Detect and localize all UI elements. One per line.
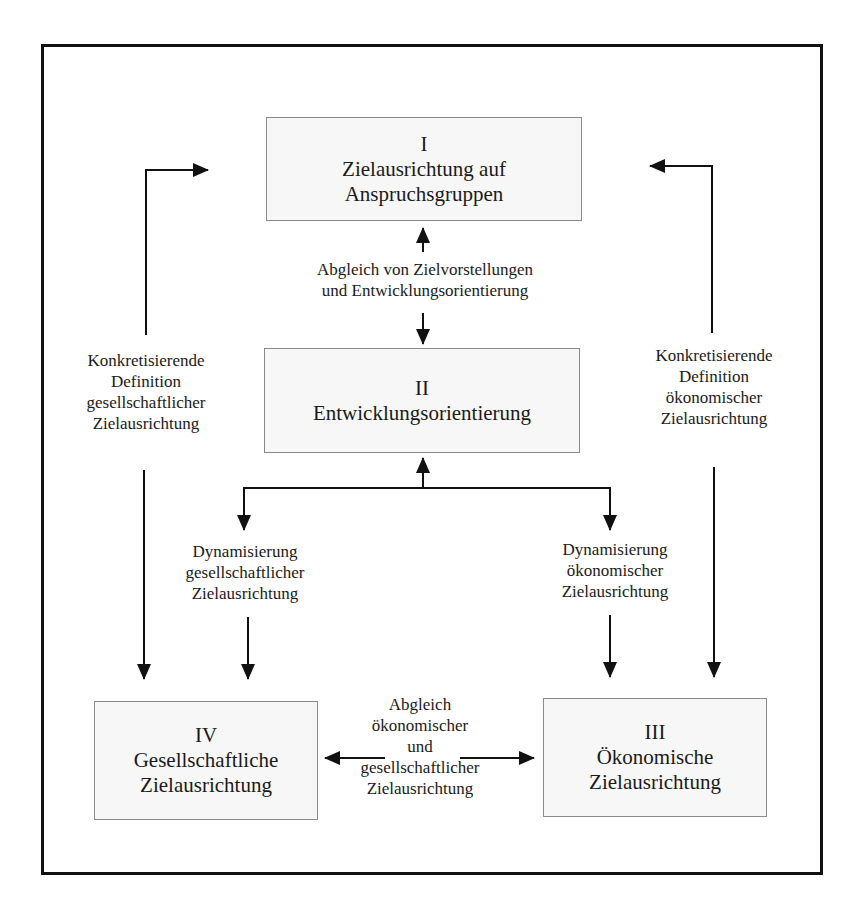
label-line: Zielausrichtung — [340, 778, 500, 799]
arrow-branch-to-II — [244, 458, 610, 530]
label-line: ökonomischer — [340, 715, 500, 736]
box-I-zielausrichtung-anspruchsgruppen: I Zielausrichtung auf Anspruchsgruppen — [266, 117, 582, 221]
box-II-entwicklungsorientierung: II Entwicklungsorientierung — [264, 348, 580, 453]
label-line: Abgleich — [340, 694, 500, 715]
box-II-line1: Entwicklungsorientierung — [313, 401, 531, 426]
label-abgleich-bottom: Abgleich ökonomischer und gesellschaftli… — [340, 694, 500, 799]
label-line: und — [340, 736, 500, 757]
box-IV-gesellschaftliche-zielausrichtung: IV Gesellschaftliche Zielausrichtung — [94, 701, 318, 820]
label-line: Konkretisierende — [56, 350, 236, 371]
label-abgleich-zielvorstellungen: Abgleich von Zielvorstellungen und Entwi… — [250, 259, 600, 301]
label-line: Definition — [56, 371, 236, 392]
box-II-numeral: II — [415, 376, 429, 401]
label-line: ökonomischer — [530, 560, 700, 581]
box-III-line1: Ökonomische — [597, 745, 714, 770]
label-right-dynamisierung: Dynamisierung ökonomischer Zielausrichtu… — [530, 539, 700, 602]
arrow-right-to-I — [650, 166, 712, 333]
label-line: Definition — [624, 366, 804, 387]
label-line: und Entwicklungsorientierung — [250, 280, 600, 301]
label-line: ökonomischer — [624, 387, 804, 408]
box-III-oekonomische-zielausrichtung: III Ökonomische Zielausrichtung — [543, 698, 767, 817]
label-line: Zielausrichtung — [624, 408, 804, 429]
label-line: Dynamisierung — [160, 541, 330, 562]
label-right-definition: Konkretisierende Definition ökonomischer… — [624, 345, 804, 429]
box-IV-line2: Zielausrichtung — [140, 773, 272, 798]
label-line: gesellschaftlicher — [56, 392, 236, 413]
box-I-line1: Zielausrichtung auf — [342, 157, 506, 182]
box-I-line2: Anspruchsgruppen — [345, 182, 504, 207]
box-III-line2: Zielausrichtung — [589, 770, 721, 795]
label-line: Zielausrichtung — [530, 581, 700, 602]
box-III-numeral: III — [645, 720, 666, 745]
label-left-dynamisierung: Dynamisierung gesellschaftlicher Zielaus… — [160, 541, 330, 604]
arrow-left-to-I — [146, 170, 208, 335]
label-line: gesellschaftlicher — [160, 562, 330, 583]
label-left-definition: Konkretisierende Definition gesellschaft… — [56, 350, 236, 434]
label-line: Dynamisierung — [530, 539, 700, 560]
label-line: Zielausrichtung — [56, 413, 236, 434]
label-line: Zielausrichtung — [160, 583, 330, 604]
box-IV-line1: Gesellschaftliche — [134, 748, 279, 773]
box-IV-numeral: IV — [195, 723, 217, 748]
label-line: Konkretisierende — [624, 345, 804, 366]
label-line: gesellschaftlicher — [340, 757, 500, 778]
label-line: Abgleich von Zielvorstellungen — [250, 259, 600, 280]
box-I-numeral: I — [421, 132, 428, 157]
